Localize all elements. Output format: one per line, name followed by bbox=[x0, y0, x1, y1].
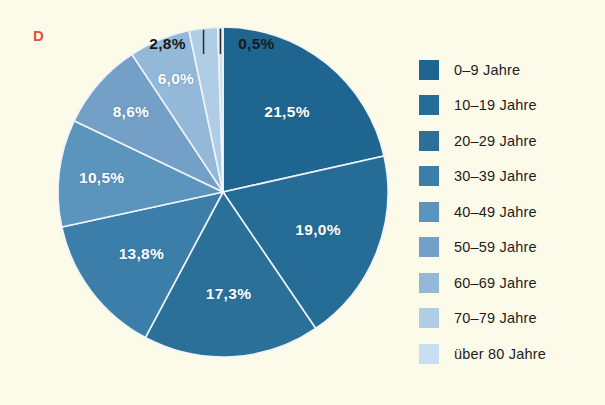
legend-item-label: 50–59 Jahre bbox=[454, 239, 537, 255]
pie-slice-value-label: 17,3% bbox=[206, 285, 251, 303]
figure-panel-d: D 21,5%19,0%17,3%13,8%10,5%8,6%6,0%2,8%0… bbox=[0, 0, 605, 405]
pie-svg bbox=[45, 22, 405, 382]
legend-item-label: 10–19 Jahre bbox=[454, 97, 537, 113]
legend-item[interactable]: 0–9 Jahre bbox=[419, 52, 599, 88]
legend-swatch bbox=[419, 60, 439, 80]
legend-item[interactable]: 50–59 Jahre bbox=[419, 230, 599, 266]
legend-swatch bbox=[419, 308, 439, 328]
legend-swatch bbox=[419, 131, 439, 151]
pie-slice-value-label: 6,0% bbox=[158, 70, 195, 88]
legend-item[interactable]: 10–19 Jahre bbox=[419, 88, 599, 124]
legend: 0–9 Jahre10–19 Jahre20–29 Jahre30–39 Jah… bbox=[419, 52, 599, 372]
pie-chart: 21,5%19,0%17,3%13,8%10,5%8,6%6,0%2,8%0,5… bbox=[45, 22, 405, 382]
pie-slice-value-label: 10,5% bbox=[79, 169, 124, 187]
pie-slice-value-label: 8,6% bbox=[113, 103, 150, 121]
legend-swatch bbox=[419, 273, 439, 293]
legend-item-label: 0–9 Jahre bbox=[454, 62, 520, 78]
legend-item-label: 20–29 Jahre bbox=[454, 133, 537, 149]
legend-item[interactable]: 30–39 Jahre bbox=[419, 159, 599, 195]
pie-slice-value-label: 13,8% bbox=[119, 245, 164, 263]
legend-swatch bbox=[419, 95, 439, 115]
legend-item-label: 70–79 Jahre bbox=[454, 310, 537, 326]
legend-item-label: über 80 Jahre bbox=[454, 346, 546, 362]
pie-slice-value-label: 0,5% bbox=[238, 35, 275, 53]
legend-item-label: 60–69 Jahre bbox=[454, 275, 537, 291]
pie-slice-value-label: 2,8% bbox=[149, 35, 186, 53]
pie-slice-value-label: 21,5% bbox=[264, 103, 309, 121]
legend-swatch bbox=[419, 344, 439, 364]
legend-swatch bbox=[419, 166, 439, 186]
panel-letter: D bbox=[33, 28, 44, 43]
legend-swatch bbox=[419, 237, 439, 257]
legend-item[interactable]: 20–29 Jahre bbox=[419, 123, 599, 159]
legend-item[interactable]: 40–49 Jahre bbox=[419, 194, 599, 230]
legend-swatch bbox=[419, 202, 439, 222]
legend-item[interactable]: 60–69 Jahre bbox=[419, 265, 599, 301]
legend-item[interactable]: über 80 Jahre bbox=[419, 336, 599, 372]
legend-item-label: 40–49 Jahre bbox=[454, 204, 537, 220]
pie-slice-value-label: 19,0% bbox=[295, 221, 340, 239]
legend-item[interactable]: 70–79 Jahre bbox=[419, 301, 599, 337]
legend-item-label: 30–39 Jahre bbox=[454, 168, 537, 184]
pie-slice-group bbox=[58, 27, 388, 357]
